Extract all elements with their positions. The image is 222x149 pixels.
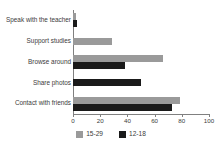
legend-swatch-icon-12-18 bbox=[119, 131, 126, 138]
legend-swatch-icon-15-29 bbox=[76, 131, 83, 138]
legend-label-15-29: 15-29 bbox=[86, 131, 103, 138]
legend-label-12-18: 12-18 bbox=[129, 131, 146, 138]
bar-group-0 bbox=[73, 10, 209, 31]
bar-group-3 bbox=[73, 72, 209, 93]
bars bbox=[73, 72, 209, 93]
bars bbox=[73, 10, 209, 31]
x-tick-label-3: 60 bbox=[151, 118, 158, 124]
plot-area bbox=[73, 10, 209, 114]
category-label-4: Contact with friends bbox=[15, 100, 71, 106]
category-label-2: Browse around bbox=[28, 59, 71, 65]
x-tick-label-5: 100 bbox=[204, 118, 214, 124]
chart-legend: 15-2912-18 bbox=[0, 131, 222, 138]
bar-12-18-3 bbox=[73, 79, 141, 86]
bar-12-18-4 bbox=[73, 104, 172, 111]
bar-15-29-0 bbox=[73, 13, 76, 20]
bar-chart: Speak with the teacherSupport studiesBro… bbox=[0, 0, 222, 149]
bars bbox=[73, 93, 209, 114]
bar-12-18-2 bbox=[73, 62, 125, 69]
x-tick-label-0: 0 bbox=[71, 118, 74, 124]
bar-group-1 bbox=[73, 31, 209, 52]
bars bbox=[73, 52, 209, 73]
x-axis-line bbox=[73, 114, 210, 115]
bar-group-4 bbox=[73, 93, 209, 114]
category-label-0: Speak with the teacher bbox=[6, 17, 71, 23]
legend-item-12-18[interactable]: 12-18 bbox=[119, 131, 146, 138]
x-tick-label-1: 20 bbox=[97, 118, 104, 124]
category-label-1: Support studies bbox=[27, 38, 71, 44]
bars bbox=[73, 31, 209, 52]
bar-group-2 bbox=[73, 52, 209, 73]
legend-item-15-29[interactable]: 15-29 bbox=[76, 131, 103, 138]
bar-15-29-2 bbox=[73, 55, 163, 62]
bar-12-18-0 bbox=[73, 20, 77, 27]
bar-15-29-4 bbox=[73, 97, 180, 104]
x-tick-label-4: 80 bbox=[178, 118, 185, 124]
x-tick-label-2: 40 bbox=[124, 118, 131, 124]
category-label-3: Share photos bbox=[33, 80, 71, 86]
bar-15-29-1 bbox=[73, 38, 112, 45]
